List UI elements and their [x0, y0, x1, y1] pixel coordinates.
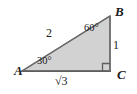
side-label-bc: 1 [113, 39, 119, 51]
side-label-ac: √3 [55, 75, 68, 87]
geometry-figure: A B C 30° 60° 2 1 √3 [0, 0, 137, 94]
vertex-label-c: C [117, 68, 126, 81]
side-label-ab: 2 [46, 27, 52, 39]
angle-label-a-30: 30° [37, 56, 52, 67]
vertex-label-a: A [14, 64, 23, 77]
vertex-label-b: B [115, 5, 124, 18]
angle-label-b-60: 60° [84, 23, 99, 34]
